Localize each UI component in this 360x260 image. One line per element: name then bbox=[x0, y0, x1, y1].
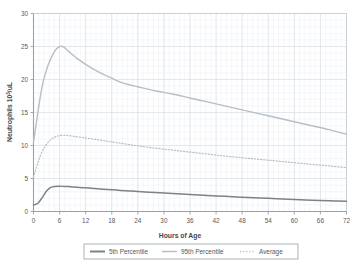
y-tick-label: 30 bbox=[21, 10, 29, 17]
legend-label-95th-percentile: 95th Percentile bbox=[181, 248, 224, 255]
y-axis-title-tail: /uL bbox=[6, 82, 13, 92]
x-tick-label: 48 bbox=[239, 217, 247, 224]
y-tick-label: 0 bbox=[24, 208, 28, 215]
x-tick-label: 60 bbox=[291, 217, 299, 224]
y-tick-label: 5 bbox=[24, 175, 28, 182]
x-tick-label: 12 bbox=[82, 217, 90, 224]
y-tick-label: 15 bbox=[21, 109, 29, 116]
legend-box: 5th Percentile95th PercentileAverage bbox=[84, 244, 298, 259]
y-tick-label: 20 bbox=[21, 76, 29, 83]
x-tick-label: 42 bbox=[213, 217, 221, 224]
x-tick-label: 6 bbox=[58, 217, 62, 224]
y-tick-label: 10 bbox=[21, 142, 29, 149]
x-tick-label: 66 bbox=[317, 217, 325, 224]
x-tick-label: 24 bbox=[134, 217, 142, 224]
y-axis-title: Neutrophils 103/uL bbox=[6, 82, 14, 142]
neutrophils-chart-figure: 061218243036424854606672 051015202530 Ho… bbox=[0, 0, 360, 260]
x-tick-label: 0 bbox=[32, 217, 36, 224]
y-tick-label: 25 bbox=[21, 43, 29, 50]
legend-label-average: Average bbox=[259, 248, 283, 256]
axis-ticks bbox=[31, 14, 347, 215]
y-axis-title-main: Neutrophils 10 bbox=[6, 95, 14, 142]
x-tick-label: 36 bbox=[186, 217, 194, 224]
x-axis-title: Hours of Age bbox=[159, 232, 202, 240]
y-tick-labels: 051015202530 bbox=[21, 10, 29, 215]
legend-label-5th-percentile: 5th Percentile bbox=[109, 248, 149, 255]
x-tick-label: 18 bbox=[108, 217, 116, 224]
x-tick-label: 30 bbox=[160, 217, 168, 224]
x-tick-label: 72 bbox=[343, 217, 351, 224]
x-tick-labels: 061218243036424854606672 bbox=[32, 217, 351, 224]
chart-canvas: 061218243036424854606672 051015202530 Ho… bbox=[0, 0, 360, 260]
x-tick-label: 54 bbox=[265, 217, 273, 224]
